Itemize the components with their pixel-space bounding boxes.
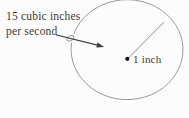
inflow-arrowhead-icon: [96, 43, 104, 48]
flow-rate-line1: 15 cubic inches: [6, 9, 81, 24]
flow-rate-label: 15 cubic inches per second: [6, 9, 81, 38]
flow-rate-line2: per second: [6, 24, 81, 39]
balloon-inflation-diagram: 15 cubic inches per second 1 inch: [0, 0, 189, 118]
center-dot: [125, 57, 129, 61]
radius-label: 1 inch: [133, 52, 161, 67]
balloon-outline: [71, 0, 183, 100]
